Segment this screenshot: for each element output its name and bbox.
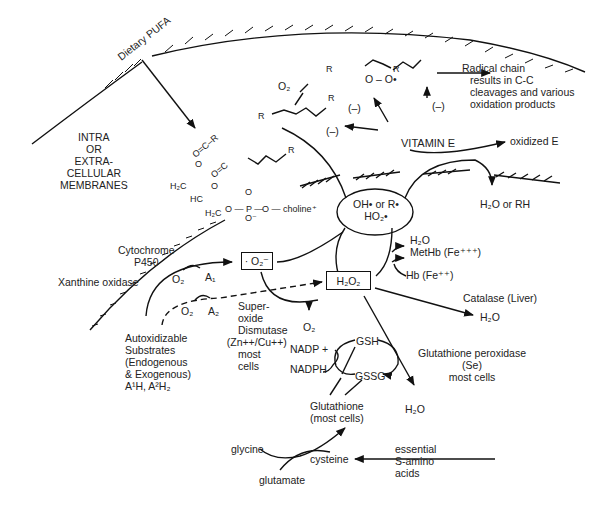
o2-product-label: O₂ <box>303 321 315 333</box>
gssg-label: GSSG <box>355 370 385 382</box>
o2-peroxidation-label: O₂ <box>278 80 290 92</box>
glycine-label: glycine <box>231 443 264 455</box>
cysteine-label: cysteine <box>310 453 349 465</box>
glutathione-peroxidase-label: Glutathione peroxidase (Se) most cells <box>418 347 526 383</box>
h2o-or-rh-label: H₂O or RH <box>480 198 530 210</box>
a2-label: A₂ <box>208 305 219 317</box>
essential-s-amino-acids-label: essential S-amino acids <box>395 443 436 479</box>
o2-label: O₂ <box>172 273 184 285</box>
radical-chain-label: Radical chain results in C-C cleavages a… <box>462 62 574 110</box>
autoxidizable-substrates-label: Autoxidizable Substrates (Endogenous & E… <box>125 332 191 392</box>
o2-label: O₂ <box>181 305 193 317</box>
cytochrome-p450-label: Cytochrome P450 <box>118 244 175 268</box>
a1-label: A₁ <box>205 271 216 283</box>
gpx-h2o-label: H₂O <box>405 403 425 415</box>
superoxide-box: · O₂⁻ <box>241 252 273 270</box>
glutathione-synthesis <box>260 428 495 470</box>
h2o2-box: H₂O₂ <box>326 271 371 290</box>
nadph-label: NADPH <box>290 363 327 375</box>
nadp-label: NADP + <box>290 343 328 355</box>
glutathione-pool-label: Glutathione (most cells) <box>310 400 364 424</box>
membrane-label: INTRA OR EXTRA- CELLULAR MEMBRANES <box>60 131 128 191</box>
inhibition-marker: (–) <box>432 100 445 112</box>
superoxide-dismutase-label: Super- oxide Dismutase (Zn++/Cu++) most … <box>226 300 288 372</box>
peroxyl-radical-label: O – O• <box>365 73 397 85</box>
vitamin-e-label: VITAMIN E <box>401 137 455 149</box>
h2o-label: H₂O <box>410 234 430 246</box>
inhibition-marker: (–) <box>326 125 339 137</box>
xanthine-oxidase-label: Xanthine oxidase <box>58 276 139 288</box>
gsh-label: GSH <box>356 335 379 347</box>
catalase-label: Catalase (Liver) <box>463 292 537 304</box>
hb-label: Hb (Fe⁺⁺) <box>406 269 454 281</box>
glutamate-label: glutamate <box>259 474 305 486</box>
oxidized-e-label: oxidized E <box>510 135 558 147</box>
radicals-label: OH• or R• HO₂• <box>349 198 403 222</box>
methb-label: MetHb (Fe⁺⁺⁺) <box>410 246 481 258</box>
glutathione-cycle <box>323 340 398 395</box>
inhibition-marker: (–) <box>348 102 361 114</box>
catalase-h2o-label: H₂O <box>480 311 500 323</box>
